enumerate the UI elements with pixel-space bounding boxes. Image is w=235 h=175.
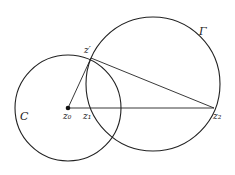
label-circle-gamma: Γ bbox=[198, 25, 207, 38]
point-z0-dot bbox=[66, 106, 71, 111]
label-z0: z₀ bbox=[62, 111, 72, 121]
label-circle-c: C bbox=[20, 110, 29, 123]
geometry-diagram: C Γ z₀ z₁ z₂ z′ bbox=[0, 0, 235, 175]
segment-zprime-z2 bbox=[91, 58, 214, 108]
label-z2: z₂ bbox=[212, 111, 222, 121]
label-zprime: z′ bbox=[83, 45, 91, 55]
label-z1: z₁ bbox=[82, 111, 91, 121]
